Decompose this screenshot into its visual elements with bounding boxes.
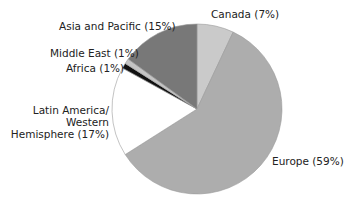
label-africa: Africa (1%) <box>66 62 124 74</box>
label-middle-east: Middle East (1%) <box>50 47 139 59</box>
label-latin-america-line2: Western <box>11 116 109 128</box>
label-latin-america-line1: Latin America/ <box>11 104 109 116</box>
pie-chart <box>0 0 357 206</box>
label-canada: Canada (7%) <box>211 8 279 20</box>
label-europe: Europe (59%) <box>272 155 344 167</box>
label-latin-america: Latin America/ Western Hemisphere (17%) <box>11 104 109 140</box>
label-latin-america-line3: Hemisphere (17%) <box>11 128 109 140</box>
label-asia-pacific: Asia and Pacific (15%) <box>59 20 176 32</box>
